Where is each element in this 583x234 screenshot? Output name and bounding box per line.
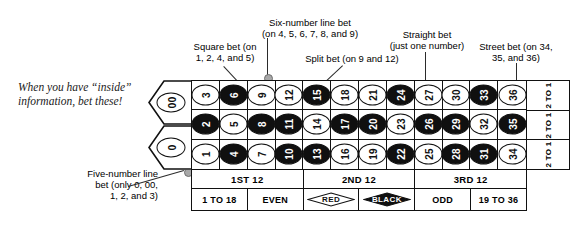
number-cell-26[interactable]: 26 <box>415 110 443 139</box>
number-cell-11[interactable]: 11 <box>276 110 304 139</box>
pocket-label-00: 00 <box>157 93 186 113</box>
column-bet-bottom[interactable]: 2 TO 1 <box>527 140 569 169</box>
number-cell-7[interactable]: 7 <box>248 140 276 169</box>
outside-bet-high[interactable]: 19 TO 36 <box>471 189 526 210</box>
pocket-label-29: 29 <box>442 114 470 135</box>
column-bet-top[interactable]: 2 TO 1 <box>527 81 569 111</box>
number-cell-12[interactable]: 12 <box>276 81 304 110</box>
cell-0[interactable]: 0 <box>148 125 194 170</box>
number-cell-31[interactable]: 31 <box>470 140 498 169</box>
annotation-six-number-line-bet: Six-number line bet (on 4, 5, 6, 7, 8, a… <box>246 17 374 39</box>
number-cell-35[interactable]: 35 <box>498 110 526 139</box>
number-cell-3[interactable]: 3 <box>192 81 220 110</box>
number-cell-6[interactable]: 6 <box>220 81 248 110</box>
pocket-label-16: 16 <box>331 144 359 165</box>
black-diamond-icon: BLACK <box>363 192 411 207</box>
dozen-bet-2nd[interactable]: 2ND 12 <box>304 170 416 188</box>
number-cell-13[interactable]: 13 <box>303 140 331 169</box>
dozen-bets-row: 1ST 12 2ND 12 3RD 12 <box>191 170 527 189</box>
dozen-bet-1st[interactable]: 1ST 12 <box>192 170 304 188</box>
pocket-label-2: 2 <box>191 114 219 135</box>
number-cell-16[interactable]: 16 <box>331 140 359 169</box>
column-bet-middle[interactable]: 2 TO 1 <box>527 111 569 141</box>
number-cell-27[interactable]: 27 <box>415 81 443 110</box>
number-cell-15[interactable]: 15 <box>303 81 331 110</box>
column-bet-bottom-label: 2 TO 1 <box>543 142 552 168</box>
pocket-label-8: 8 <box>247 114 275 135</box>
number-cell-28[interactable]: 28 <box>443 140 471 169</box>
outside-bet-red[interactable]: RED <box>304 189 360 210</box>
annotation-straight-bet: Straight bet (just one number) <box>378 29 476 51</box>
leader-line-six-number <box>267 38 268 78</box>
dozen-bet-3rd[interactable]: 3RD 12 <box>415 170 526 188</box>
number-cell-24[interactable]: 24 <box>387 81 415 110</box>
pocket-label-11: 11 <box>275 114 303 135</box>
number-cell-8[interactable]: 8 <box>248 110 276 139</box>
red-diamond-icon: RED <box>307 192 355 207</box>
pocket-label-27: 27 <box>414 85 442 106</box>
pocket-label-33: 33 <box>470 85 498 106</box>
pocket-label-12: 12 <box>275 85 303 106</box>
number-cell-2[interactable]: 2 <box>192 110 220 139</box>
outside-bet-black-label: BLACK <box>372 195 402 204</box>
outside-bets-row: 1 TO 18 EVEN RED BLACK ODD 19 TO 36 <box>191 189 527 211</box>
pocket-label-1: 1 <box>191 144 219 165</box>
pocket-label-18: 18 <box>331 85 359 106</box>
annotation-five-number-line-bet: Five-number line bet (only 0, 00, 1, 2, … <box>52 168 158 202</box>
outside-bet-even[interactable]: EVEN <box>248 189 304 210</box>
outside-bet-odd[interactable]: ODD <box>415 189 471 210</box>
outside-bet-low[interactable]: 1 TO 18 <box>192 189 248 210</box>
column-bet-middle-label: 2 TO 1 <box>543 112 552 138</box>
pocket-label-0: 0 <box>157 138 186 158</box>
outside-bet-black[interactable]: BLACK <box>359 189 415 210</box>
zero-cells-group: 00 0 <box>148 80 192 170</box>
pocket-label-34: 34 <box>498 144 526 165</box>
number-cell-18[interactable]: 18 <box>331 81 359 110</box>
pocket-label-26: 26 <box>414 114 442 135</box>
pocket-label-28: 28 <box>442 144 470 165</box>
pocket-label-31: 31 <box>470 144 498 165</box>
number-cell-30[interactable]: 30 <box>443 81 471 110</box>
number-cell-25[interactable]: 25 <box>415 140 443 169</box>
number-cell-9[interactable]: 9 <box>248 81 276 110</box>
pocket-label-14: 14 <box>303 114 331 135</box>
number-cell-20[interactable]: 20 <box>359 110 387 139</box>
number-cell-23[interactable]: 23 <box>387 110 415 139</box>
number-cell-19[interactable]: 19 <box>359 140 387 169</box>
annotation-square-bet: Square bet (on 1, 2, 4, and 5) <box>182 41 268 63</box>
pocket-label-30: 30 <box>442 85 470 106</box>
number-cell-17[interactable]: 17 <box>331 110 359 139</box>
number-cell-34[interactable]: 34 <box>498 140 526 169</box>
number-grid: 3691215182124273033362581114172023262932… <box>191 80 527 170</box>
caption-text: When you have “inside” information, bet … <box>18 80 150 108</box>
pocket-label-25: 25 <box>414 144 442 165</box>
pocket-label-24: 24 <box>386 85 414 106</box>
number-cell-5[interactable]: 5 <box>220 110 248 139</box>
pocket-label-5: 5 <box>219 114 247 135</box>
pocket-label-17: 17 <box>331 114 359 135</box>
number-cell-32[interactable]: 32 <box>470 110 498 139</box>
number-cell-14[interactable]: 14 <box>303 110 331 139</box>
number-cell-10[interactable]: 10 <box>276 140 304 169</box>
column-bet-top-label: 2 TO 1 <box>543 82 552 108</box>
annotation-split-bet: Split bet (on 9 and 12) <box>296 53 408 64</box>
betting-table: 00 0 36912151821242730333625811141720232… <box>148 80 570 170</box>
number-cell-22[interactable]: 22 <box>387 140 415 169</box>
pocket-label-3: 3 <box>191 85 219 106</box>
column-bets: 2 TO 1 2 TO 1 2 TO 1 <box>527 80 570 170</box>
number-cell-29[interactable]: 29 <box>443 110 471 139</box>
number-cell-4[interactable]: 4 <box>220 140 248 169</box>
pocket-label-35: 35 <box>498 114 526 135</box>
outside-bet-red-label: RED <box>322 195 340 204</box>
pocket-label-19: 19 <box>358 144 386 165</box>
pocket-label-20: 20 <box>358 114 386 135</box>
annotation-street-bet: Street bet (on 34, 35, and 36) <box>470 41 562 63</box>
cell-00[interactable]: 00 <box>148 80 194 125</box>
number-cell-21[interactable]: 21 <box>359 81 387 110</box>
number-cell-33[interactable]: 33 <box>470 81 498 110</box>
pocket-label-15: 15 <box>303 85 331 106</box>
number-cell-1[interactable]: 1 <box>192 140 220 169</box>
pocket-label-22: 22 <box>386 144 414 165</box>
pocket-label-4: 4 <box>219 144 247 165</box>
number-cell-36[interactable]: 36 <box>498 81 526 110</box>
